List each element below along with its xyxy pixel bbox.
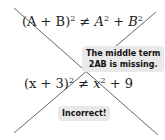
- callout-middle-term: The middle term 2AB is missing.: [82, 46, 164, 72]
- callout-incorrect: Incorrect!: [58, 106, 110, 121]
- equation-1: (A + B)2 ≠ A2 + B2: [22, 14, 143, 29]
- equation-2: (x + 3)2 ≠ x2 + 9: [24, 76, 133, 91]
